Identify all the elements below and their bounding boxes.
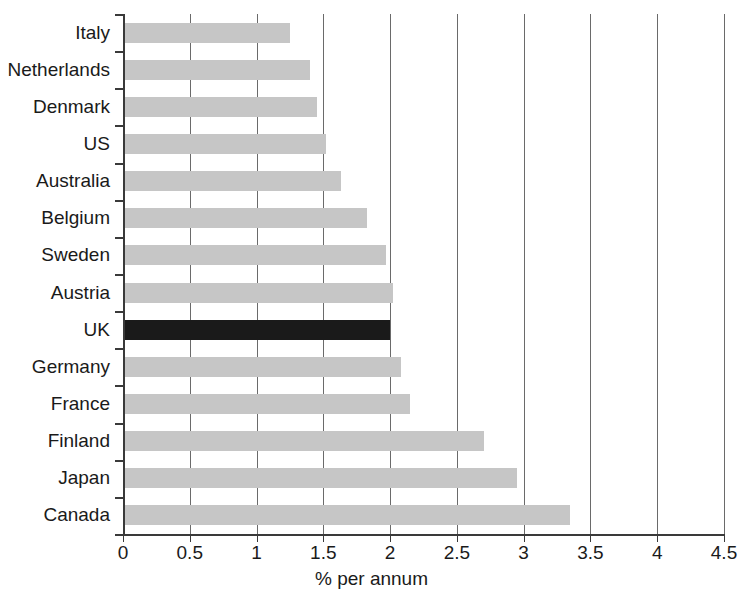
- bar: [123, 245, 386, 265]
- y-axis-tick: [115, 460, 124, 462]
- y-axis-category-label: Denmark: [0, 97, 110, 117]
- y-axis-category-label: Japan: [0, 468, 110, 488]
- x-axis-tick-label: 4: [627, 541, 687, 565]
- gridline: [257, 14, 258, 534]
- x-axis-tick-label: 3.5: [560, 541, 620, 565]
- y-axis-category-label: Germany: [0, 357, 110, 377]
- gridline: [390, 14, 391, 534]
- bar: [123, 23, 290, 43]
- y-axis-tick: [115, 385, 124, 387]
- gridline: [524, 14, 525, 534]
- y-axis-tick: [115, 237, 124, 239]
- y-axis-category-label: Belgium: [0, 208, 110, 228]
- y-axis-category-label: US: [0, 134, 110, 154]
- y-axis-tick: [115, 348, 124, 350]
- y-axis-tick: [115, 14, 124, 16]
- y-axis-tick: [115, 534, 124, 536]
- bar: [123, 134, 326, 154]
- gridline: [724, 14, 725, 534]
- x-axis-tick-label: 2.5: [427, 541, 487, 565]
- gridline: [190, 14, 191, 534]
- y-axis-tick: [115, 163, 124, 165]
- y-axis-category-label: Netherlands: [0, 60, 110, 80]
- bar: [123, 60, 310, 80]
- x-axis-line: [123, 534, 724, 536]
- y-axis-tick: [115, 274, 124, 276]
- gridline: [323, 14, 324, 534]
- y-axis-category-label: Finland: [0, 431, 110, 451]
- bar: [123, 283, 393, 303]
- bar: [123, 431, 484, 451]
- bar: [123, 171, 341, 191]
- bar-chart: 00.511.522.533.544.5 ItalyNetherlandsDen…: [0, 0, 743, 598]
- bar-highlighted: [123, 320, 390, 340]
- x-axis-tick-label: 0.5: [160, 541, 220, 565]
- bar: [123, 505, 570, 525]
- plot-area: [123, 14, 724, 534]
- x-axis-tick-label: 1: [227, 541, 287, 565]
- y-axis-category-label: Sweden: [0, 245, 110, 265]
- y-axis-tick: [115, 423, 124, 425]
- gridline: [590, 14, 591, 534]
- y-axis-category-label: Australia: [0, 171, 110, 191]
- y-axis-tick: [115, 51, 124, 53]
- y-axis-tick: [115, 200, 124, 202]
- y-axis-category-label: UK: [0, 320, 110, 340]
- chart-title-remnant: [0, 0, 743, 5]
- bar: [123, 208, 367, 228]
- x-axis-title: % per annum: [0, 568, 743, 590]
- x-axis-tick-label: 2: [360, 541, 420, 565]
- x-axis-tick-label: 1.5: [293, 541, 353, 565]
- x-axis-tick-label: 0: [93, 541, 153, 565]
- y-axis-tick: [115, 497, 124, 499]
- y-axis-category-label: France: [0, 394, 110, 414]
- bar: [123, 97, 317, 117]
- y-axis-category-label: Canada: [0, 505, 110, 525]
- gridline: [657, 14, 658, 534]
- bar: [123, 394, 410, 414]
- gridline: [457, 14, 458, 534]
- y-axis-category-label: Austria: [0, 283, 110, 303]
- x-axis-tick-label: 3: [494, 541, 554, 565]
- y-axis-category-label: Italy: [0, 23, 110, 43]
- y-axis-tick: [115, 88, 124, 90]
- bar: [123, 468, 517, 488]
- x-axis-tick-label: 4.5: [694, 541, 743, 565]
- y-axis-tick: [115, 125, 124, 127]
- y-axis-tick: [115, 311, 124, 313]
- bar: [123, 357, 401, 377]
